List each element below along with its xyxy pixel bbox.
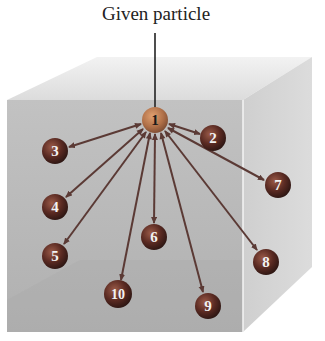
svg-text:4: 4 [51, 199, 59, 215]
svg-text:5: 5 [51, 248, 59, 264]
particle-5: 5 [42, 243, 68, 269]
svg-text:2: 2 [209, 130, 217, 146]
svg-text:6: 6 [150, 229, 158, 245]
particle-9: 9 [195, 293, 221, 319]
particle-10: 10 [104, 280, 132, 308]
svg-text:1: 1 [151, 112, 159, 128]
particle-6: 6 [141, 224, 167, 250]
particle-box-diagram: 2 3 4 5 6 7 8 9 10 1 [0, 0, 325, 341]
arrow-1-6 [154, 134, 155, 223]
svg-text:7: 7 [274, 177, 282, 193]
svg-text:3: 3 [51, 143, 59, 159]
svg-text:10: 10 [111, 287, 125, 302]
particle-3: 3 [42, 138, 68, 164]
particle-4: 4 [42, 194, 68, 220]
particle-7: 7 [265, 172, 291, 198]
given-particle-1: 1 [142, 107, 168, 133]
svg-text:9: 9 [204, 298, 212, 314]
particle-2: 2 [200, 125, 226, 151]
svg-text:8: 8 [262, 254, 270, 270]
particle-8: 8 [253, 249, 279, 275]
